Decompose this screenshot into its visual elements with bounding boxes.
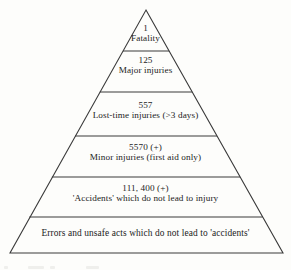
scan-edge-artifacts xyxy=(0,261,291,270)
safety-pyramid-diagram: 1 Fatality 125 Major injuries 557 Lost-t… xyxy=(0,0,291,270)
pyramid-outline-graphic xyxy=(0,0,291,270)
